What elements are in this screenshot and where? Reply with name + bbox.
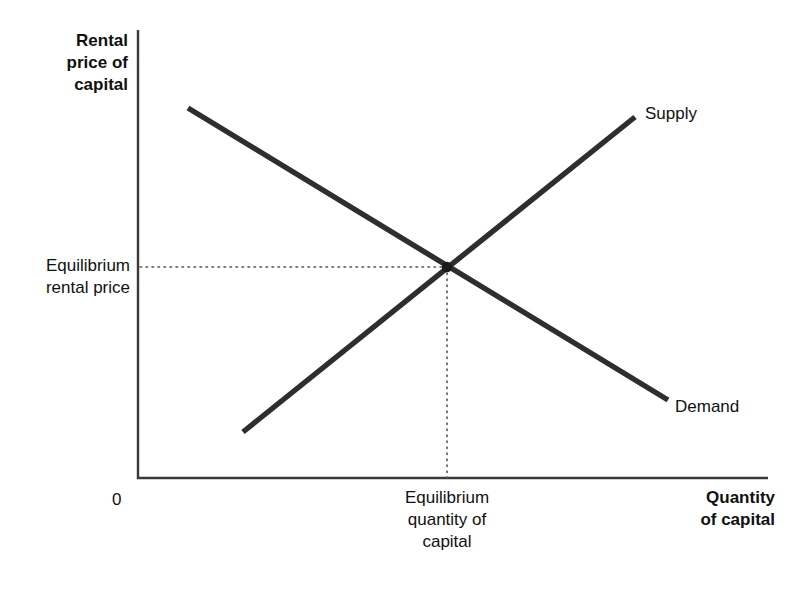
x-axis-title-line-2: of capital: [700, 510, 775, 529]
equilibrium-point: [442, 262, 452, 272]
y-axis-title-line-1: Rental: [76, 31, 128, 50]
equilibrium-price-label-line-1: Equilibrium: [46, 256, 130, 275]
y-axis-title-line-2: price of: [67, 53, 128, 72]
equilibrium-quantity-label-line-2: quantity of: [408, 510, 486, 529]
supply-curve: [243, 117, 635, 432]
supply-demand-figure: Rentalprice ofcapital Equilibriumrental …: [0, 0, 798, 589]
guide-lines-group: [140, 267, 447, 478]
equilibrium-price-label: Equilibriumrental price: [0, 255, 130, 299]
supply-curve-label: Supply: [645, 103, 697, 125]
origin-label: 0: [112, 489, 121, 511]
x-axis-title-line-1: Quantity: [706, 488, 775, 507]
equilibrium-price-label-line-2: rental price: [46, 278, 130, 297]
axes-group: [137, 30, 768, 479]
y-axis-title: Rentalprice ofcapital: [0, 30, 128, 96]
equilibrium-quantity-label-line-1: Equilibrium: [405, 488, 489, 507]
demand-curve-label: Demand: [675, 396, 739, 418]
equilibrium-quantity-label-line-3: capital: [422, 532, 471, 551]
x-axis-title: Quantityof capital: [585, 487, 775, 531]
equilibrium-quantity-label: Equilibriumquantity ofcapital: [347, 487, 547, 553]
y-axis-title-line-3: capital: [74, 75, 128, 94]
